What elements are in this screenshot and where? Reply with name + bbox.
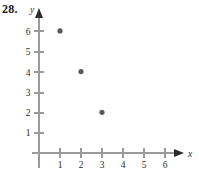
data-point xyxy=(78,69,83,74)
y-tick-label-4: 4 xyxy=(26,68,31,78)
y-tick-label-3: 3 xyxy=(26,88,31,98)
y-tick-label-2: 2 xyxy=(26,108,31,118)
x-axis-label: x xyxy=(187,149,193,159)
x-tick-label-2: 2 xyxy=(79,160,84,170)
x-tick-label-5: 5 xyxy=(142,160,147,170)
y-axis-label: y xyxy=(29,5,35,15)
y-tick-label-6: 6 xyxy=(26,27,31,37)
y-axis-arrowhead xyxy=(35,8,43,18)
x-tick-label-4: 4 xyxy=(121,160,126,170)
data-point xyxy=(99,110,104,115)
x-tick-label-6: 6 xyxy=(163,160,168,170)
y-tick-label-5: 5 xyxy=(26,47,31,57)
data-point xyxy=(57,28,62,33)
figure-container: 28. y x 1 2 3 4 5 6 1 2 xyxy=(0,0,199,170)
x-tick-label-1: 1 xyxy=(58,160,63,170)
x-tick-label-3: 3 xyxy=(100,160,105,170)
y-tick-label-1: 1 xyxy=(26,128,31,138)
scatter-plot: y x 1 2 3 4 5 6 1 2 3 4 5 6 xyxy=(0,0,199,170)
x-axis-arrowhead xyxy=(174,149,184,157)
